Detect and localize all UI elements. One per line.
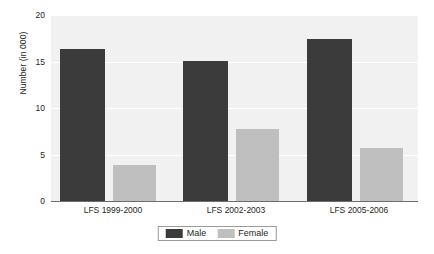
x-axis-line	[51, 201, 418, 202]
y-tick-label: 15	[1, 57, 45, 67]
legend-swatch-male-icon	[166, 229, 183, 238]
x-category-label-2: LFS 2002-2003	[207, 205, 266, 215]
legend-item-male[interactable]: Male	[166, 229, 207, 238]
legend: Male Female	[158, 226, 277, 241]
bar-male-2	[183, 61, 228, 201]
y-tick-label: 20	[1, 10, 45, 20]
y-tick-label: 5	[1, 150, 45, 160]
bar-female-3	[360, 148, 403, 201]
y-axis-tick-labels: 20 15 10 5 0	[0, 0, 45, 254]
x-category-label-1: LFS 1999-2000	[84, 205, 143, 215]
x-category-label-3: LFS 2005-2006	[330, 205, 389, 215]
bar-male-1	[60, 49, 105, 201]
y-tick-label: 10	[1, 103, 45, 113]
gridline-15	[51, 62, 418, 63]
legend-label-female: Female	[238, 229, 268, 238]
bar-male-3	[307, 39, 352, 201]
plot-area	[51, 15, 418, 201]
bar-female-1	[113, 165, 156, 201]
bar-female-2	[236, 129, 279, 202]
legend-label-male: Male	[187, 229, 207, 238]
gridline-20	[51, 15, 418, 16]
legend-item-female[interactable]: Female	[217, 229, 268, 238]
y-tick-label: 0	[1, 196, 45, 206]
gridline-10	[51, 108, 418, 109]
bar-chart: Number (in 000) 20 15 10 5 0 LFS 1999-20…	[0, 0, 434, 254]
legend-swatch-female-icon	[217, 229, 234, 238]
